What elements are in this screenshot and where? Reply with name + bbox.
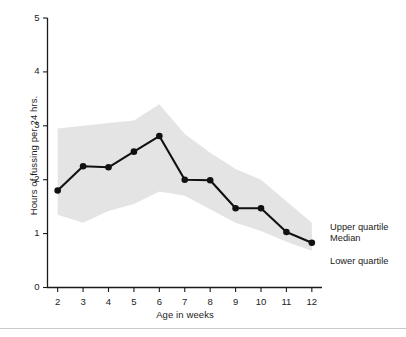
x-tick-label: 11 xyxy=(274,296,298,307)
fussing-line-chart xyxy=(0,0,406,337)
data-point xyxy=(283,229,290,236)
data-point xyxy=(258,205,265,212)
y-axis-title: Hours of fussing per 24 hrs. xyxy=(28,61,39,251)
data-point xyxy=(309,239,316,246)
data-point xyxy=(181,176,188,183)
y-tick-label: 3 xyxy=(20,119,40,130)
x-axis-title: Age in weeks xyxy=(0,309,370,320)
lower-quartile-label: Lower quartile xyxy=(330,256,388,266)
x-tick-label: 12 xyxy=(300,296,324,307)
x-tick-label: 10 xyxy=(249,296,273,307)
chart-figure: Hours of fussing per 24 hrs. Age in week… xyxy=(0,0,406,337)
y-tick-label: 5 xyxy=(20,12,40,23)
x-tick-label: 2 xyxy=(46,296,70,307)
x-tick-label: 5 xyxy=(122,296,146,307)
data-point xyxy=(207,177,214,184)
x-tick-label: 6 xyxy=(147,296,171,307)
footer-divider xyxy=(0,328,406,329)
x-tick-label: 8 xyxy=(198,296,222,307)
y-tick-label: 2 xyxy=(20,173,40,184)
y-tick-label: 1 xyxy=(20,227,40,238)
data-point xyxy=(131,148,138,155)
data-point xyxy=(156,133,163,140)
data-point xyxy=(232,205,239,212)
y-tick-label: 4 xyxy=(20,65,40,76)
y-tick-label: 0 xyxy=(20,281,40,292)
data-point xyxy=(54,187,61,194)
x-tick-label: 4 xyxy=(97,296,121,307)
x-tick-label: 3 xyxy=(71,296,95,307)
x-tick-label: 9 xyxy=(224,296,248,307)
upper-quartile-label: Upper quartile xyxy=(330,222,388,232)
x-tick-label: 7 xyxy=(173,296,197,307)
data-point xyxy=(80,163,87,170)
data-point xyxy=(105,164,112,171)
median-label: Median xyxy=(330,233,361,243)
